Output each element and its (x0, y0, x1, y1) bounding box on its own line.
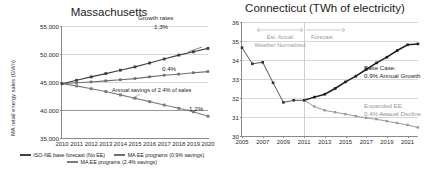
y-tick-label: 35 (232, 38, 239, 45)
phase-arrow-actual-icon (257, 28, 303, 32)
connecticut-plot-area: 36 35 34 33 32 31 30 2005 2007 2009 2011… (242, 22, 418, 136)
annotation-expanded-ee-line2: 0.4% Annual Decline (364, 110, 421, 118)
x-tick-label: 2011 (298, 139, 311, 145)
legend-swatch-icon (114, 154, 125, 156)
phase-arrow-forecast-icon (306, 28, 345, 32)
x-tick-label: 2017 (158, 141, 171, 147)
x-tick-label: 2019 (380, 139, 393, 145)
legend-item-ma-ee-24[interactable]: MA EE programs (2.4% savings) (67, 159, 157, 165)
annotation-base-case: Base Case: 0.9% Annual Growth (364, 64, 420, 80)
connecticut-chart-panel: Connecticut (TWh of electricity) 36 35 3… (216, 0, 434, 182)
x-tick-label: 2009 (277, 139, 290, 145)
y-tick-label: 36 (232, 19, 239, 26)
series-line-est-actual (242, 48, 304, 103)
series-markers-est-actual (241, 46, 306, 103)
legend-item-ma-ee-09[interactable]: MA EE programs (0.9% savings) (114, 152, 204, 158)
annotation-est-actual-line1: Est. Actual (250, 33, 310, 41)
legend-swatch-icon (20, 154, 31, 156)
y-tick-label: 34 (232, 57, 239, 64)
x-tick-label: 2015 (339, 139, 352, 145)
x-tick-label: 2014 (114, 141, 127, 147)
y-tick-label: 32 (232, 95, 239, 102)
annotation-est-actual: Est. Actual Weather Normalized (250, 33, 310, 49)
massachusetts-chart-title: Massachusetts (0, 6, 218, 18)
legend-swatch-icon (67, 161, 78, 163)
x-tick-label: 2019 (187, 141, 200, 147)
x-tick-label: 2011 (70, 141, 83, 147)
figure-container: Massachusetts MA retail energy sales (GW… (0, 0, 434, 182)
x-tick-label: 2007 (256, 139, 269, 145)
y-tick-label: 50,000 (40, 51, 59, 58)
annotation-rate-low: -1.2% (187, 105, 203, 113)
annotation-expanded-ee: Expanded EE: 0.4% Annual Decline (364, 102, 421, 118)
x-tick-label: 2015 (128, 141, 141, 147)
x-tick-label: 2005 (235, 139, 248, 145)
annotation-rate-high: 1.3% (154, 23, 168, 31)
y-tick-label: 40,000 (40, 107, 59, 114)
annotation-forecast: Forecast (311, 33, 333, 41)
x-tick-label: 2013 (318, 139, 331, 145)
x-tick-label: 2016 (143, 141, 156, 147)
massachusetts-legend: ISO-NE base forecast (No EE) MA EE progr… (6, 152, 218, 165)
legend-label: ISO-NE base forecast (No EE) (33, 152, 105, 158)
legend-row-1: ISO-NE base forecast (No EE) MA EE progr… (20, 152, 204, 158)
massachusetts-plot-area: 55,000 50,000 45,000 40,000 35,000 2010 … (62, 26, 208, 138)
annotation-base-case-line2: 0.9% Annual Growth (364, 72, 420, 80)
annotation-rate-mid: 0.4% (162, 65, 176, 73)
y-tick-label: 45,000 (40, 79, 59, 86)
x-tick-label: 2018 (172, 141, 185, 147)
y-tick-label: 55,000 (40, 23, 59, 30)
x-tick-label: 2017 (360, 139, 373, 145)
y-tick-label: 31 (232, 114, 239, 121)
legend-label: MA EE programs (2.4% savings) (80, 159, 157, 165)
annotation-est-actual-line2: Weather Normalized (250, 41, 310, 49)
annotation-base-case-line1: Base Case: (364, 64, 420, 72)
annotation-expanded-ee-line1: Expanded EE: (364, 102, 421, 110)
massachusetts-chart-panel: Massachusetts MA retail energy sales (GW… (0, 0, 218, 182)
x-axis-line (61, 138, 209, 139)
x-tick-label: 2010 (55, 141, 68, 147)
legend-item-iso-ne[interactable]: ISO-NE base forecast (No EE) (20, 152, 105, 158)
legend-row-2: MA EE programs (2.4% savings) (67, 159, 157, 165)
massachusetts-y-axis-label: MA retail energy sales (GWh) (10, 60, 16, 136)
x-tick-label: 2020 (201, 141, 214, 147)
connecticut-chart-title: Connecticut (TWh of electricity) (216, 2, 434, 14)
x-tick-label: 2013 (99, 141, 112, 147)
x-tick-label: 2012 (85, 141, 98, 147)
x-tick-label: 2021 (401, 139, 414, 145)
legend-label: MA EE programs (0.9% savings) (128, 152, 205, 158)
massachusetts-series-lines (62, 26, 208, 140)
y-tick-label: 33 (232, 76, 239, 83)
annotation-annual-savings: Annual savings of 2.4% of sales (112, 86, 191, 94)
annotation-growth-rates: Growth rates (138, 14, 173, 22)
